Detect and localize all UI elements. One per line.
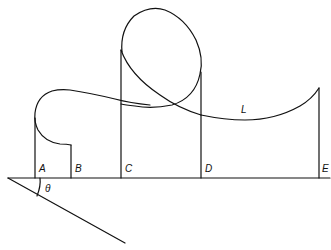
label-E: E — [322, 163, 329, 174]
label-L: L — [241, 104, 247, 115]
incline-line — [8, 178, 125, 243]
label-C: C — [125, 163, 132, 174]
track-diagram — [0, 0, 331, 250]
loop — [121, 8, 201, 107]
label-A: A — [39, 163, 46, 174]
angle-arc — [37, 178, 40, 196]
label-theta: θ — [45, 183, 50, 194]
label-B: B — [75, 163, 82, 174]
curve-L — [201, 88, 319, 120]
curve-hook — [35, 90, 150, 145]
label-D: D — [205, 163, 212, 174]
